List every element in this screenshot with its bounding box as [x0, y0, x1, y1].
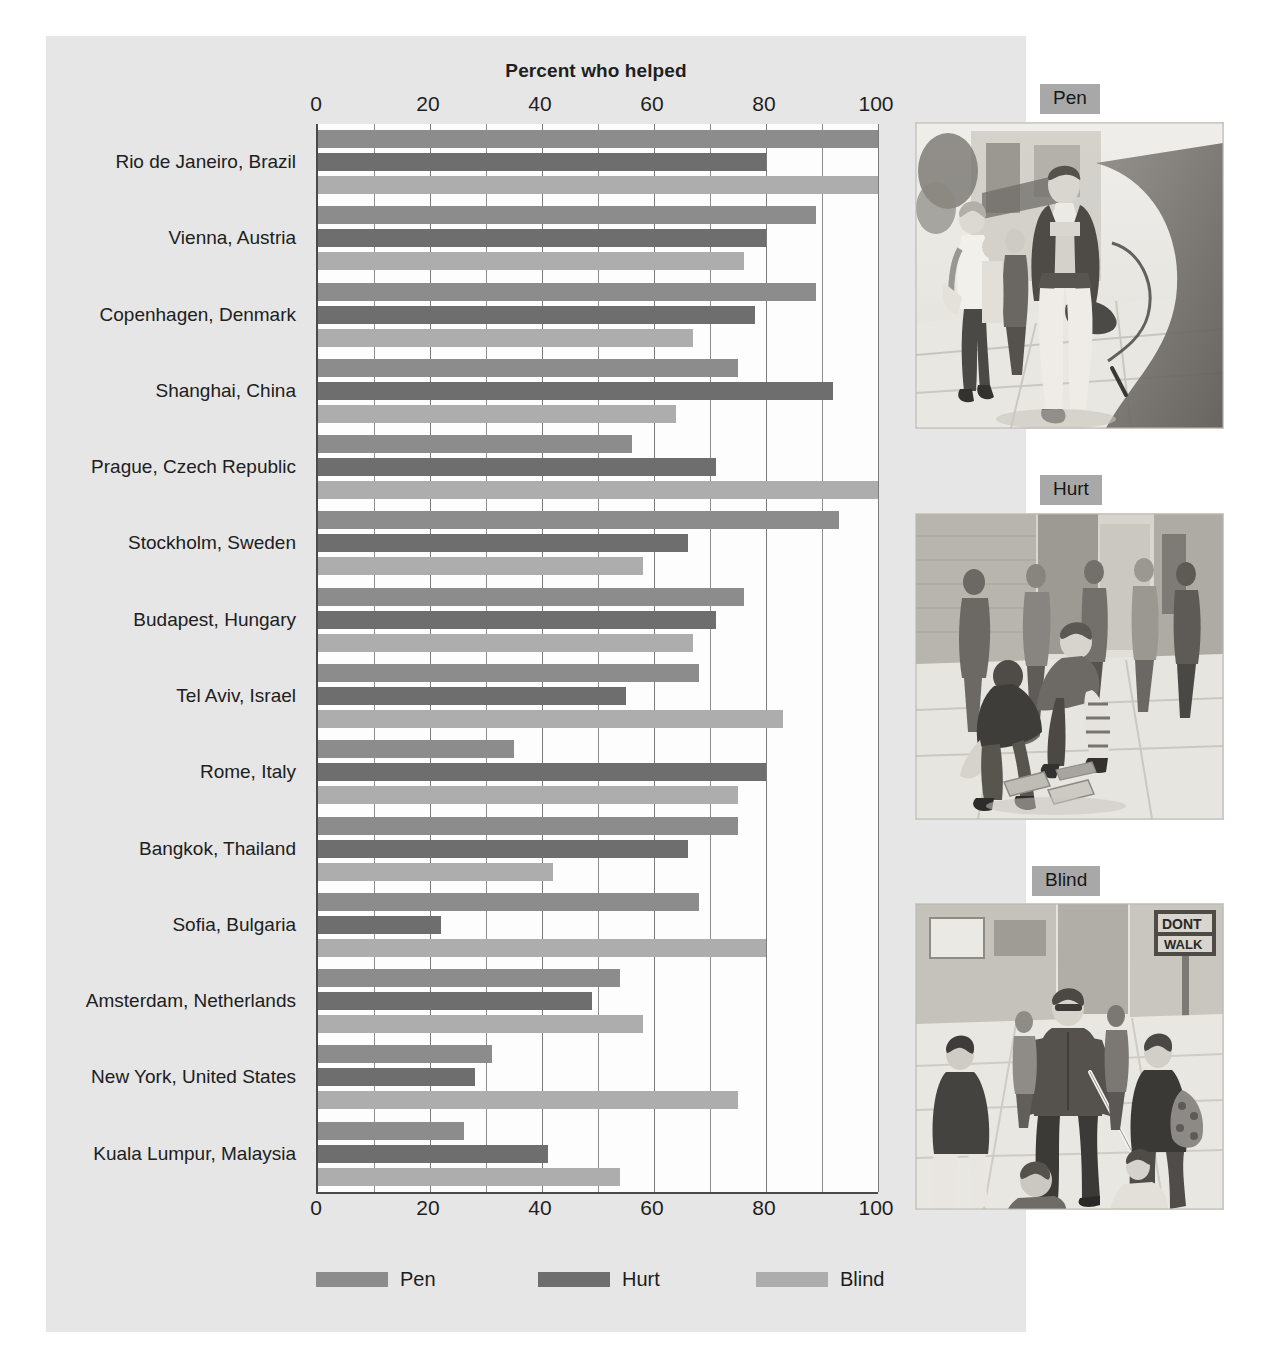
bar-group [318, 200, 878, 276]
bar-group [318, 1116, 878, 1192]
bar-group [318, 963, 878, 1039]
legend-item-pen[interactable]: Pen [316, 1268, 436, 1291]
bar-blind [318, 405, 676, 423]
category-labels: Rio de Janeiro, BrazilVienna, AustriaCop… [60, 124, 306, 1192]
legend-swatch-blind [756, 1272, 828, 1287]
svg-text:DONT: DONT [1162, 916, 1202, 932]
bar-pen [318, 969, 620, 987]
x-tick-bottom-0: 0 [310, 1196, 322, 1220]
bar-pen [318, 893, 699, 911]
bar-hurt [318, 763, 766, 781]
bar-hurt [318, 1068, 475, 1086]
bar-hurt [318, 153, 766, 171]
category-label: Bangkok, Thailand [139, 811, 296, 887]
bar-hurt [318, 611, 716, 629]
bar-pen [318, 359, 738, 377]
x-tick-top-20: 20 [416, 92, 439, 116]
bar-hurt [318, 458, 716, 476]
bar-blind [318, 176, 878, 194]
bar-pen [318, 435, 632, 453]
illustration-tag-blind: Blind [1032, 866, 1100, 896]
bar-blind [318, 939, 766, 957]
bar-blind [318, 786, 738, 804]
bar-hurt [318, 916, 441, 934]
category-label: Copenhagen, Denmark [100, 277, 296, 353]
bar-pen [318, 206, 816, 224]
bar-blind [318, 329, 693, 347]
bar-pen [318, 511, 839, 529]
bar-group [318, 505, 878, 581]
bar-group [318, 811, 878, 887]
bar-blind [318, 1168, 620, 1186]
legend-item-hurt[interactable]: Hurt [538, 1268, 660, 1291]
bar-hurt [318, 229, 766, 247]
bar-pen [318, 1045, 492, 1063]
category-label: Shanghai, China [156, 353, 297, 429]
x-axis-top: 020406080100 [316, 92, 876, 118]
x-tick-top-100: 100 [858, 92, 893, 116]
bar-pen [318, 1122, 464, 1140]
bar-hurt [318, 382, 833, 400]
x-tick-bottom-40: 40 [528, 1196, 551, 1220]
bar-group [318, 429, 878, 505]
category-label: Tel Aviv, Israel [176, 658, 296, 734]
x-tick-bottom-20: 20 [416, 1196, 439, 1220]
category-label: Budapest, Hungary [133, 582, 296, 658]
illustration-hurt [915, 513, 1224, 820]
illustration-tag-hurt: Hurt [1040, 475, 1102, 505]
legend-label: Pen [400, 1268, 436, 1291]
category-label: Sofia, Bulgaria [172, 887, 296, 963]
bar-group [318, 734, 878, 810]
legend-swatch-pen [316, 1272, 388, 1287]
chart-title: Percent who helped [316, 60, 876, 82]
bar-group [318, 124, 878, 200]
bar-hurt [318, 534, 688, 552]
bar-hurt [318, 1145, 548, 1163]
svg-text:WALK: WALK [1164, 937, 1203, 952]
bar-hurt [318, 992, 592, 1010]
legend-label: Blind [840, 1268, 884, 1291]
bar-blind [318, 863, 553, 881]
category-label: Amsterdam, Netherlands [86, 963, 296, 1039]
legend-swatch-hurt [538, 1272, 610, 1287]
x-tick-bottom-60: 60 [640, 1196, 663, 1220]
chart-legend: PenHurtBlind [316, 1268, 876, 1308]
bar-hurt [318, 306, 755, 324]
x-tick-top-0: 0 [310, 92, 322, 116]
bar-blind [318, 1091, 738, 1109]
bar-hurt [318, 687, 626, 705]
bar-blind [318, 634, 693, 652]
bar-blind [318, 710, 783, 728]
legend-label: Hurt [622, 1268, 660, 1291]
category-label: Rio de Janeiro, Brazil [115, 124, 296, 200]
illustration-pen [915, 122, 1224, 429]
bar-pen [318, 740, 514, 758]
bar-group [318, 1039, 878, 1115]
bar-group [318, 582, 878, 658]
bar-blind [318, 252, 744, 270]
x-tick-bottom-80: 80 [752, 1196, 775, 1220]
legend-item-blind[interactable]: Blind [756, 1268, 884, 1291]
bar-blind [318, 481, 878, 499]
x-tick-top-80: 80 [752, 92, 775, 116]
bar-group [318, 353, 878, 429]
bar-blind [318, 557, 643, 575]
illustration-blind: DONT WALK [915, 903, 1224, 1210]
category-label: Kuala Lumpur, Malaysia [93, 1116, 296, 1192]
plot-area [316, 124, 878, 1194]
bar-group [318, 277, 878, 353]
category-label: Rome, Italy [200, 734, 296, 810]
bar-pen [318, 588, 744, 606]
bar-pen [318, 817, 738, 835]
bar-group [318, 887, 878, 963]
category-label: New York, United States [91, 1039, 296, 1115]
category-label: Prague, Czech Republic [91, 429, 296, 505]
category-label: Stockholm, Sweden [128, 505, 296, 581]
category-label: Vienna, Austria [169, 200, 296, 276]
x-tick-top-40: 40 [528, 92, 551, 116]
illustration-tag-pen: Pen [1040, 84, 1100, 114]
x-tick-top-60: 60 [640, 92, 663, 116]
bar-blind [318, 1015, 643, 1033]
bar-pen [318, 130, 878, 148]
bar-hurt [318, 840, 688, 858]
